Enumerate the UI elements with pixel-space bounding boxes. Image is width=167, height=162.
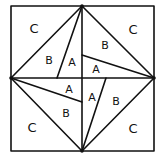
label-a-top-right: A [92,63,100,76]
vertex-bottom [80,149,84,153]
label-a-bottom-right: A [88,91,96,104]
label-b-bottom-right: B [112,95,120,108]
dissection-diagram: C B A C B A A B C A B C [0,0,167,162]
label-a-bottom-left: A [65,83,73,96]
label-b-top-left: B [45,54,53,67]
label-c-top-right: C [128,22,137,37]
label-c-bottom-right: C [128,121,137,136]
cut-bottom-right [82,78,106,151]
label-b-top-right: B [101,39,109,52]
label-a-top-left: A [68,56,76,69]
label-c-bottom-left: C [27,120,36,135]
vertex-right [152,76,156,80]
vertex-left [9,76,13,80]
vertex-top [80,4,84,8]
label-c-top-left: C [29,21,38,36]
label-b-bottom-left: B [62,107,70,120]
